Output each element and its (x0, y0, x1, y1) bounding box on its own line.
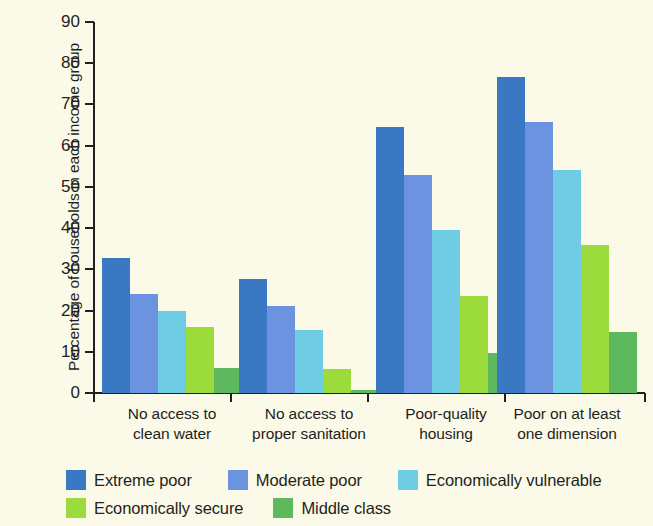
legend-swatch-icon (66, 470, 86, 490)
bar-chart: Percentage of households in each income … (0, 0, 653, 526)
bar (158, 311, 186, 393)
bar (295, 330, 323, 393)
x-tick-mark (230, 393, 232, 402)
bar (376, 127, 404, 393)
x-category-label-line: one dimension (472, 424, 653, 444)
legend-label: Economically vulnerable (426, 471, 602, 490)
bar (186, 327, 214, 393)
y-axis-title: Percentage of households in each income … (65, 17, 83, 397)
bar-group (239, 22, 379, 393)
legend-swatch-icon (228, 470, 248, 490)
legend-item[interactable]: Extreme poor (66, 470, 192, 490)
legend-label: Middle class (301, 499, 391, 518)
y-tick-label: 90 (40, 13, 80, 30)
legend-item[interactable]: Moderate poor (228, 470, 362, 490)
chart-legend: Extreme poorModerate poorEconomically vu… (66, 466, 646, 522)
x-category-label: Poor on at leastone dimension (472, 404, 653, 445)
bar (609, 332, 637, 393)
legend-item[interactable]: Middle class (273, 498, 391, 518)
legend-item[interactable]: Economically secure (66, 498, 243, 518)
y-tick-label: 40 (40, 219, 80, 236)
x-tick-mark (644, 393, 646, 402)
bar (460, 296, 488, 393)
legend-label: Extreme poor (94, 471, 192, 490)
bar (581, 245, 609, 393)
legend-item[interactable]: Economically vulnerable (398, 470, 602, 490)
bar (432, 230, 460, 393)
bar-group (102, 22, 242, 393)
bar (239, 279, 267, 393)
bar (497, 77, 525, 393)
y-tick-label: 10 (40, 343, 80, 360)
bar (214, 368, 242, 393)
y-tick-label: 20 (40, 302, 80, 319)
legend-label: Moderate poor (256, 471, 362, 490)
bar (102, 258, 130, 393)
y-tick-label: 30 (40, 260, 80, 277)
y-tick-label: 0 (40, 384, 80, 401)
y-tick-label: 60 (40, 137, 80, 154)
x-tick-mark (93, 393, 95, 402)
bar (130, 294, 158, 393)
y-tick-label: 50 (40, 178, 80, 195)
y-tick-label: 70 (40, 95, 80, 112)
x-category-label-line: Poor on at least (472, 404, 653, 424)
bar (323, 369, 351, 393)
bar (553, 170, 581, 393)
bar (404, 175, 432, 393)
legend-row: Economically secureMiddle class (66, 494, 646, 522)
y-tick-label: 80 (40, 54, 80, 71)
x-tick-mark (504, 393, 506, 402)
plot-area (93, 22, 645, 393)
x-tick-mark (367, 393, 369, 402)
legend-label: Economically secure (94, 499, 243, 518)
bar-group (376, 22, 516, 393)
legend-swatch-icon (273, 498, 293, 518)
bar (351, 390, 379, 393)
legend-row: Extreme poorModerate poorEconomically vu… (66, 466, 646, 494)
bar (267, 306, 295, 393)
legend-swatch-icon (66, 498, 86, 518)
bar-group (497, 22, 637, 393)
legend-swatch-icon (398, 470, 418, 490)
bar (525, 122, 553, 393)
